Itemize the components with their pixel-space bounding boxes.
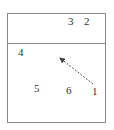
label-3: 3 <box>68 16 74 27</box>
label-4: 4 <box>18 47 24 58</box>
diagram-canvas <box>0 0 114 130</box>
outer-frame <box>8 14 106 123</box>
label-2: 2 <box>84 16 90 27</box>
label-6: 6 <box>66 85 72 96</box>
label-1: 1 <box>92 86 98 97</box>
dashed-arrow <box>60 58 93 84</box>
label-5: 5 <box>34 83 40 94</box>
